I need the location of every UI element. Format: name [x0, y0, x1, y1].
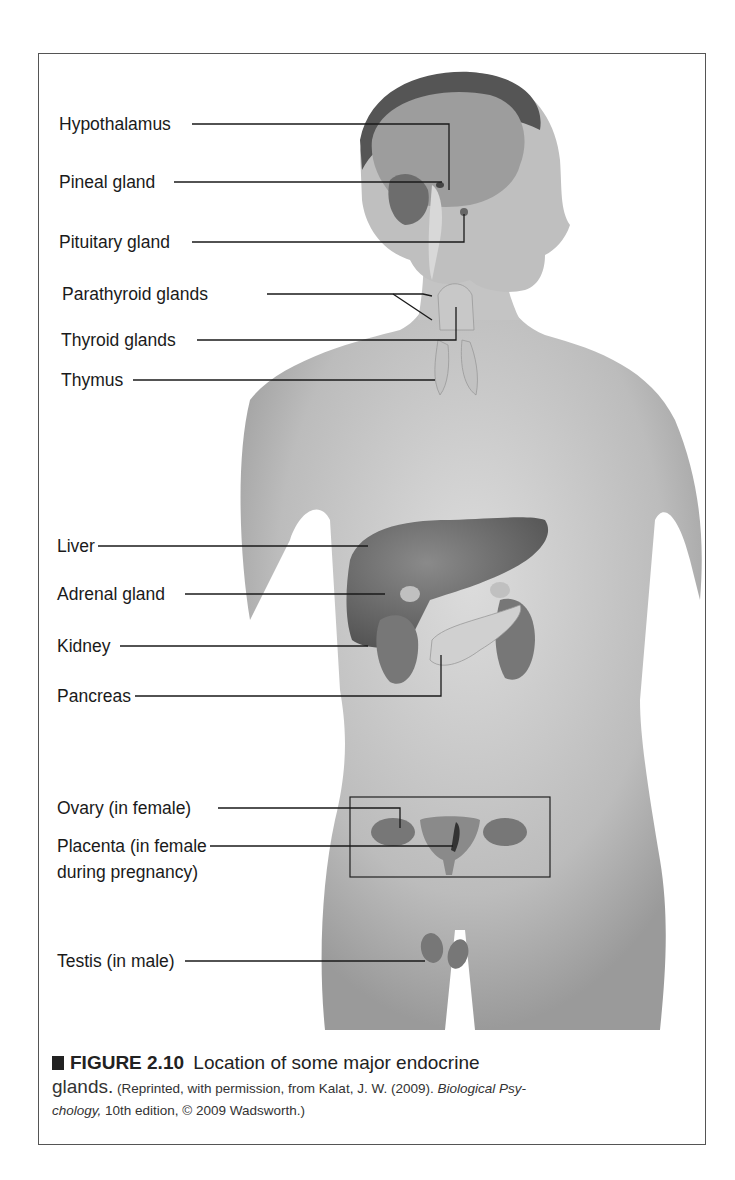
caption-credit: (Reprinted, with permission, from Kalat,…	[117, 1081, 434, 1096]
label-adrenal-gland: Adrenal gland	[57, 583, 165, 605]
label-liver: Liver	[57, 535, 95, 557]
label-testis: Testis (in male)	[57, 950, 175, 972]
caption-credit-suffix: 10th edition, © 2009 Wadsworth.)	[105, 1103, 305, 1118]
caption-line-2: glands. (Reprinted, with permission, fro…	[52, 1076, 692, 1100]
caption-title-cont: glands.	[52, 1076, 113, 1097]
adrenal-gland-right	[490, 582, 510, 598]
label-thymus: Thymus	[61, 369, 123, 391]
caption-line-1: FIGURE 2.10 Location of some major endoc…	[52, 1050, 692, 1076]
label-placenta-line1: Placenta (in female	[57, 835, 207, 857]
label-pineal-gland: Pineal gland	[59, 171, 155, 193]
ovary-left	[371, 818, 415, 846]
pineal-gland	[436, 182, 444, 188]
ovary-right	[483, 818, 527, 846]
label-hypothalamus: Hypothalamus	[59, 113, 171, 135]
label-ovary: Ovary (in female)	[57, 797, 191, 819]
label-pancreas: Pancreas	[57, 685, 131, 707]
label-placenta-line2: during pregnancy)	[57, 861, 198, 883]
adrenal-gland	[400, 586, 420, 602]
label-thyroid-glands: Thyroid glands	[61, 329, 176, 351]
caption-line-3: chology, 10th edition, © 2009 Wadsworth.…	[52, 1100, 692, 1122]
caption-book-title-cont: chology,	[52, 1103, 101, 1118]
caption-square-bullet-icon	[52, 1056, 64, 1070]
leader-parathyroid	[267, 294, 432, 296]
label-parathyroid-glands: Parathyroid glands	[62, 283, 208, 305]
figure-number: FIGURE 2.10	[70, 1052, 184, 1073]
caption-book-title: Biological Psy-	[437, 1081, 526, 1096]
caption-title: Location of some major endocrine	[193, 1052, 479, 1073]
figure-caption: FIGURE 2.10 Location of some major endoc…	[52, 1050, 692, 1122]
label-kidney: Kidney	[57, 635, 111, 657]
label-pituitary-gland: Pituitary gland	[59, 231, 170, 253]
